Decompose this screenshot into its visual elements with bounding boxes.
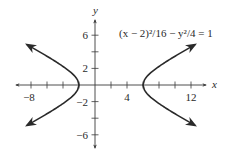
y-tick-label: 2 [83, 62, 89, 74]
y-tick-label: −6 [76, 129, 88, 141]
y-tick-label: 6 [83, 29, 89, 41]
equation-label: (x − 2)²/16 − y²/4 = 1 [119, 27, 213, 40]
x-tick-label: 4 [124, 91, 130, 103]
x-tick-label: 12 [186, 91, 197, 103]
hyperbola-plot: −8412 62−2−6 x y (x − 2)²/16 − y²/4 = 1 [0, 0, 227, 164]
x-axis-label: x [211, 78, 217, 90]
x-tick-label: −8 [23, 91, 35, 103]
y-tick-label: −2 [76, 96, 88, 108]
y-axis-label: y [92, 4, 98, 16]
